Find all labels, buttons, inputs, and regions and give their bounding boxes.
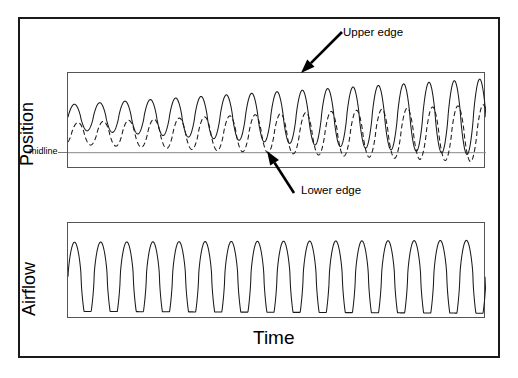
position-waveform-svg xyxy=(68,73,486,169)
midline-label: midline xyxy=(29,146,58,156)
position-plot-panel xyxy=(67,72,485,168)
time-axis-label: Time xyxy=(253,327,295,349)
airflow-waveform-svg xyxy=(68,223,486,319)
airflow-plot-panel xyxy=(67,222,485,318)
upper-edge-annotation-label: Upper edge xyxy=(343,26,403,38)
lower-edge-annotation-label: Lower edge xyxy=(301,184,361,196)
waveform-trace-airflow xyxy=(68,240,486,313)
position-axis-label: Position xyxy=(17,102,38,166)
waveform-trace-upper-edge xyxy=(68,79,486,154)
airflow-axis-label: Airflow xyxy=(19,262,40,316)
figure-root: Position Airflow midline Time Upper edge… xyxy=(0,0,518,378)
